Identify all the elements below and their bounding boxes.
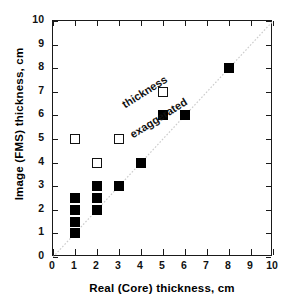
- x-axis-title: Real (Core) thickness, cm: [52, 282, 272, 294]
- data-point-filled-squares: [70, 217, 80, 227]
- x-tick-top: [273, 21, 274, 26]
- data-point-open-squares: [114, 134, 124, 144]
- scatter-plot-figure: Image (FMS) thickness, cm Real (Core) th…: [0, 0, 289, 306]
- y-tick: [53, 68, 58, 69]
- x-tick: [229, 249, 230, 255]
- x-tick-top: [97, 21, 98, 26]
- x-tick-top: [207, 21, 208, 26]
- x-tick-top: [229, 21, 230, 26]
- x-tick-label: 6: [181, 259, 187, 271]
- x-tick-top: [141, 21, 142, 26]
- x-tick-top: [185, 21, 186, 26]
- y-tick: [53, 163, 58, 164]
- x-tick: [141, 249, 142, 255]
- y-tick: [53, 186, 58, 187]
- x-tick-label: 10: [266, 259, 278, 271]
- x-tick: [119, 249, 120, 255]
- x-tick: [75, 249, 76, 255]
- data-point-filled-squares: [136, 158, 146, 168]
- y-tick-right: [266, 163, 271, 164]
- x-tick-label: 3: [115, 259, 121, 271]
- y-axis-title: Image (FMS) thickness, cm: [13, 6, 25, 242]
- x-tick: [251, 249, 252, 255]
- data-point-filled-squares: [70, 228, 80, 238]
- data-point-filled-squares: [180, 110, 190, 120]
- x-tick: [97, 249, 98, 255]
- x-tick: [273, 249, 274, 255]
- x-tick-label: 0: [49, 259, 55, 271]
- x-tick-label: 1: [71, 259, 77, 271]
- data-point-filled-squares: [70, 205, 80, 215]
- x-tick-top: [251, 21, 252, 26]
- x-tick: [185, 249, 186, 255]
- x-tick: [53, 249, 54, 255]
- one-to-one-reference-line: [53, 21, 273, 257]
- y-tick: [53, 210, 58, 211]
- y-tick-right: [266, 21, 271, 22]
- x-tick-label: 5: [159, 259, 165, 271]
- y-tick-right: [266, 92, 271, 93]
- x-tick-top: [119, 21, 120, 26]
- y-tick-right: [266, 45, 271, 46]
- y-tick: [53, 233, 58, 234]
- data-point-filled-squares: [114, 181, 124, 191]
- y-tick-right: [266, 233, 271, 234]
- x-tick-label: 4: [137, 259, 143, 271]
- x-tick-label: 2: [93, 259, 99, 271]
- data-point-filled-squares: [92, 205, 102, 215]
- data-point-filled-squares: [92, 193, 102, 203]
- y-tick: [53, 115, 58, 116]
- y-tick-right: [266, 115, 271, 116]
- x-tick: [207, 249, 208, 255]
- y-tick: [53, 92, 58, 93]
- y-tick-right: [266, 139, 271, 140]
- data-point-open-squares: [92, 158, 102, 168]
- y-tick: [53, 139, 58, 140]
- y-tick: [53, 45, 58, 46]
- x-tick: [163, 249, 164, 255]
- x-tick-top: [75, 21, 76, 26]
- y-tick: [53, 21, 58, 22]
- data-point-filled-squares: [224, 63, 234, 73]
- x-tick-label: 7: [203, 259, 209, 271]
- y-tick-right: [266, 210, 271, 211]
- data-point-open-squares: [70, 134, 80, 144]
- x-tick-label: 8: [225, 259, 231, 271]
- x-tick-top: [163, 21, 164, 26]
- x-tick-label: 9: [247, 259, 253, 271]
- y-tick-right: [266, 257, 271, 258]
- data-point-filled-squares: [70, 193, 80, 203]
- data-point-filled-squares: [92, 181, 102, 191]
- y-tick-right: [266, 186, 271, 187]
- y-tick-right: [266, 68, 271, 69]
- plot-area: thickness exaggerated: [52, 20, 272, 256]
- y-tick: [53, 257, 58, 258]
